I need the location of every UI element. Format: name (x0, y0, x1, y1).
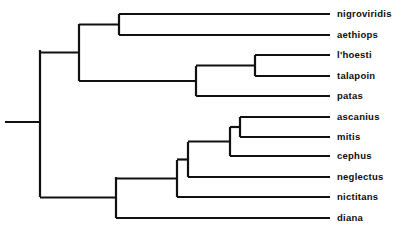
tip-label-talapoin: talapoin (337, 71, 375, 81)
tip-label-ascanius: ascanius (337, 112, 380, 122)
tip-label-mitis: mitis (337, 132, 360, 142)
tip-label-neglectus: neglectus (337, 172, 384, 182)
tip-label-aethiops: aethiops (337, 30, 378, 40)
phylogenetic-tree-figure: nigroviridisaethiopsl'hoestitalapoinpata… (0, 0, 397, 231)
tip-label-nigroviridis: nigroviridis (337, 9, 392, 19)
tip-label-nictitans: nictitans (337, 192, 378, 202)
tip-label-patas: patas (337, 91, 363, 101)
tip-label-layer: nigroviridisaethiopsl'hoestitalapoinpata… (0, 0, 397, 231)
tip-label-lhoesti: l'hoesti (337, 50, 372, 60)
tip-label-diana: diana (337, 213, 363, 223)
tip-label-cephus: cephus (337, 151, 372, 161)
